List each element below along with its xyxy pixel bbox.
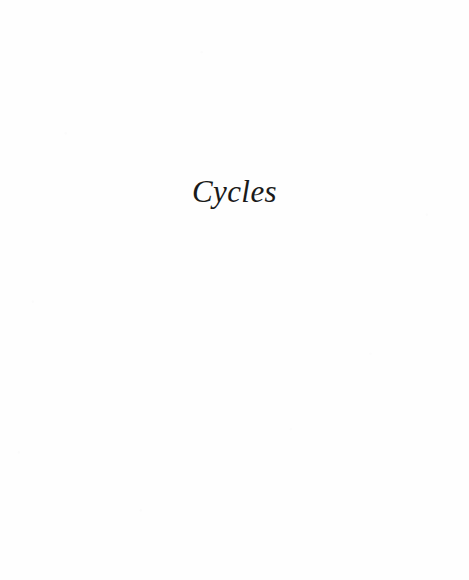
scan-grain-overlay — [0, 0, 469, 580]
section-title: Cycles — [192, 176, 277, 207]
scanned-book-page: Cycles — [0, 0, 469, 580]
section-title-block: Cycles — [0, 176, 469, 207]
